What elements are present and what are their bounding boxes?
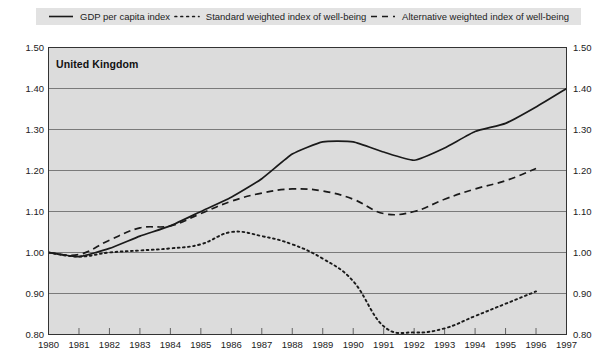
x-tick-label: 1989: [303, 340, 343, 350]
plot-frame: [49, 48, 567, 335]
y-tick-label: 1.10: [10, 207, 44, 217]
x-tick-label: 1985: [181, 340, 221, 350]
x-tick-label: 1997: [547, 340, 587, 350]
series-line-0: [49, 89, 567, 257]
y-tick-label: 0.90: [573, 289, 607, 299]
y-tick-label: 1.00: [10, 248, 44, 258]
legend-label-standard: Standard weighted index of well-being: [206, 12, 367, 22]
x-tick-label: 1990: [333, 340, 373, 350]
legend-item-gdp: GDP per capita index: [48, 12, 170, 22]
page-title: United Kingdom: [56, 58, 138, 70]
series-line-1: [49, 232, 537, 334]
gridlines: [48, 89, 567, 294]
y-tick-label: 1.20: [573, 166, 607, 176]
x-tick-label: 1992: [394, 340, 434, 350]
y-tick-label: 1.30: [10, 125, 44, 135]
y-tick-label: 1.40: [573, 84, 607, 94]
y-tick-label: 1.10: [573, 207, 607, 217]
chart-plot-area: [48, 47, 567, 335]
x-tick-label: 1995: [486, 340, 526, 350]
x-tick-label: 1984: [150, 340, 190, 350]
chart-legend: GDP per capita index Standard weighted i…: [36, 8, 581, 25]
legend-label-gdp: GDP per capita index: [80, 12, 170, 22]
series-lines: [49, 89, 567, 334]
dotted-line-icon: [174, 12, 200, 21]
y-axis-labels-right: 1.501.401.301.201.101.000.900.80: [573, 0, 607, 357]
y-tick-label: 0.90: [10, 289, 44, 299]
x-tick-label: 1983: [120, 340, 160, 350]
x-tick-label: 1987: [242, 340, 282, 350]
legend-label-alternative: Alternative weighted index of well-being: [402, 12, 569, 22]
y-tick-label: 1.20: [10, 166, 44, 176]
dashed-line-icon: [370, 12, 396, 21]
x-tick-label: 1980: [29, 340, 69, 350]
x-tick-label: 1981: [59, 340, 99, 350]
y-tick-label: 1.30: [573, 125, 607, 135]
y-tick-label: 1.50: [573, 43, 607, 53]
y-tick-label: 1.40: [10, 84, 44, 94]
x-tick-label: 1988: [272, 340, 312, 350]
chart-svg: [48, 47, 567, 335]
x-axis-ticks: [49, 328, 567, 334]
solid-line-icon: [48, 12, 74, 21]
x-axis-labels: 1980198119821983198419851986198719881989…: [0, 340, 613, 354]
y-tick-label: 0.80: [10, 330, 44, 340]
y-tick-label: 0.80: [573, 330, 607, 340]
y-axis-labels-left: 1.501.401.301.201.101.000.900.80: [10, 0, 44, 357]
legend-item-alternative: Alternative weighted index of well-being: [370, 12, 569, 22]
y-tick-label: 1.00: [573, 248, 607, 258]
x-tick-label: 1986: [211, 340, 251, 350]
legend-item-standard: Standard weighted index of well-being: [174, 12, 367, 22]
x-tick-label: 1993: [425, 340, 465, 350]
y-tick-label: 1.50: [10, 43, 44, 53]
x-tick-label: 1994: [455, 340, 495, 350]
x-tick-label: 1991: [364, 340, 404, 350]
x-tick-label: 1982: [89, 340, 129, 350]
x-tick-label: 1996: [516, 340, 556, 350]
